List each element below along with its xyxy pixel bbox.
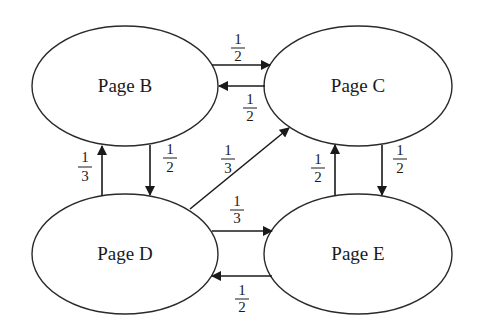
prob-denominator: 3: [233, 210, 241, 226]
edge-b-to-c: 1 2: [212, 31, 270, 65]
edge-c-to-b: 1 2: [219, 86, 265, 124]
prob-numerator: 1: [234, 31, 242, 47]
edge-e-to-d: 1 2: [212, 276, 272, 315]
edge-d-to-b: 1 3: [78, 146, 102, 196]
prob-denominator: 2: [314, 169, 322, 185]
prob-numerator: 1: [166, 141, 174, 157]
prob-denominator: 2: [396, 160, 404, 176]
edge-c-to-e: 1 2: [382, 142, 407, 195]
prob-numerator: 1: [396, 142, 404, 158]
prob-numerator: 1: [224, 142, 232, 158]
edge-b-to-d: 1 2: [150, 141, 177, 195]
node-label: Page B: [98, 75, 152, 96]
node-page-d: Page D: [32, 194, 218, 314]
node-label: Page C: [331, 75, 385, 96]
pagerank-graph: Page B Page C Page D Page E 1 2 1 2 1 3 …: [0, 0, 477, 332]
prob-denominator: 2: [246, 108, 254, 124]
prob-denominator: 2: [234, 48, 242, 64]
node-page-b: Page B: [32, 26, 218, 146]
prob-numerator: 1: [246, 91, 254, 107]
prob-numerator: 1: [81, 149, 89, 165]
node-page-c: Page C: [264, 26, 452, 146]
prob-denominator: 3: [224, 160, 232, 176]
edge-e-to-c: 1 2: [311, 145, 335, 196]
node-page-e: Page E: [264, 194, 452, 314]
prob-numerator: 1: [314, 151, 322, 167]
edge-d-to-e: 1 3: [212, 193, 272, 231]
node-label: Page D: [97, 243, 152, 264]
node-label: Page E: [331, 243, 384, 264]
prob-denominator: 2: [166, 159, 174, 175]
prob-denominator: 2: [238, 299, 246, 315]
prob-denominator: 3: [81, 168, 89, 184]
prob-numerator: 1: [233, 193, 241, 209]
prob-numerator: 1: [238, 282, 246, 298]
